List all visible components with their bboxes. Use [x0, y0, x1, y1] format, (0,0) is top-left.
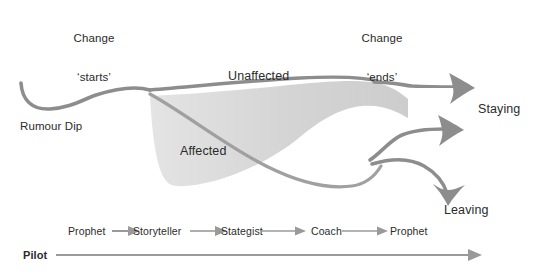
role-coach: Coach: [311, 225, 342, 238]
role-prophet-2: Prophet: [390, 225, 427, 238]
role-stategist: Stategist: [221, 225, 263, 238]
role-storyteller: Storyteller: [133, 225, 181, 238]
leaving-label: Leaving: [444, 204, 489, 217]
change-starts-line2: ‘starts’: [63, 71, 125, 84]
diagram-canvas: Change ‘starts’ Change ‘ends’ Rumour Dip…: [0, 0, 538, 277]
pilot-track-label: Pilot: [23, 249, 47, 262]
change-ends-label: Change ‘ends’: [351, 6, 413, 110]
pilot-baseline-arrow: [56, 249, 482, 261]
leaving-arrow-line: [372, 160, 447, 193]
change-starts-label: Change ‘starts’: [63, 6, 125, 110]
change-starts-line1: Change: [63, 32, 125, 45]
change-ends-line1: Change: [351, 32, 413, 45]
affected-label: Affected: [180, 145, 226, 158]
role-prophet-1: Prophet: [68, 225, 105, 238]
unaffected-label: Unaffected: [228, 70, 289, 83]
rumour-dip-label: Rumour Dip: [20, 120, 82, 133]
staying-label: Staying: [478, 103, 520, 116]
change-ends-line2: ‘ends’: [351, 71, 413, 84]
